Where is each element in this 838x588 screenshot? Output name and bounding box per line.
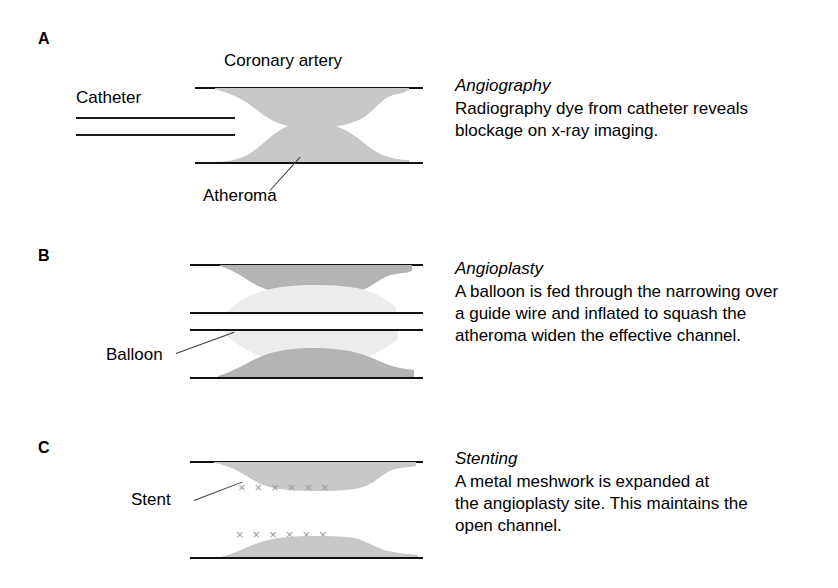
label-catheter: Catheter: [76, 88, 141, 108]
caption-title-a: Angiography: [455, 75, 830, 97]
stent-mark: ×: [255, 481, 263, 494]
label-balloon: Balloon: [106, 345, 163, 365]
caption-title-b: Angioplasty: [455, 258, 830, 280]
caption-block-c: Stenting A metal meshwork is expanded at…: [455, 448, 830, 536]
caption-block-b: Angioplasty A balloon is fed through the…: [455, 258, 830, 346]
stent-mark: ×: [321, 481, 329, 494]
balloon-upper-b: [190, 285, 423, 315]
caption-body-a: Radiography dye from catheter reveals bl…: [455, 98, 830, 142]
panel-letter-b: B: [38, 248, 50, 264]
panel-letter-c: C: [38, 440, 50, 456]
stent-mark: ×: [271, 481, 279, 494]
label-stent: Stent: [131, 490, 171, 510]
caption-title-c: Stenting: [455, 448, 830, 470]
artery-wall-outer-bottom-b: [190, 377, 423, 379]
label-atheroma: Atheroma: [203, 186, 277, 206]
artery-wall-lower-a: [195, 162, 423, 164]
coronary-intervention-figure: A Coronary artery Catheter Atheroma Angi…: [0, 0, 838, 588]
artery-wall-lower-c: [190, 557, 423, 559]
stent-mark: ×: [304, 481, 312, 494]
atheroma-lower-a: [195, 118, 423, 164]
caption-block-a: Angiography Radiography dye from cathete…: [455, 75, 830, 142]
caption-body-c: A metal meshwork is expanded at the angi…: [455, 471, 830, 536]
panel-letter-a: A: [38, 31, 50, 47]
caption-body-b: A balloon is fed through the narrowing o…: [455, 281, 830, 346]
artery-wall-inner-top-b: [190, 312, 423, 314]
stent-marks-upper: × × × × × ×: [238, 481, 329, 494]
label-coronary-artery: Coronary artery: [224, 51, 342, 71]
atheroma-lower-b: [190, 348, 423, 378]
stent-mark: ×: [288, 481, 296, 494]
